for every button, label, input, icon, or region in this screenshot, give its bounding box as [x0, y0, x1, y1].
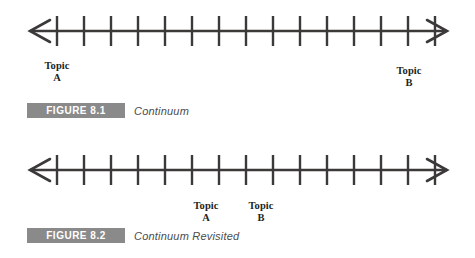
topic-b-line1: Topic — [248, 200, 273, 211]
figure-8-2-block: Topic A Topic B FIGURE 8.2 Continuum Rev… — [0, 130, 475, 258]
topic-a-label: Topic A — [17, 60, 97, 85]
topic-a-line2: A — [17, 72, 97, 84]
figure-number-badge: FIGURE 8.1 — [27, 103, 125, 118]
figure-caption-text: Continuum Revisited — [134, 230, 239, 242]
topic-b-line2: B — [369, 77, 449, 89]
continuum-graphics-2 — [30, 155, 447, 185]
topic-a-line1: Topic — [44, 60, 69, 71]
figure-caption-text: Continuum — [134, 105, 189, 117]
figure-8-2-caption: FIGURE 8.2 Continuum Revisited — [27, 228, 239, 243]
topic-b-line2: B — [221, 212, 301, 224]
topic-a-line1: Topic — [193, 200, 218, 211]
continuum-diagram-2 — [0, 130, 475, 192]
continuum-line-1 — [0, 0, 475, 62]
continuum-line-2 — [0, 130, 475, 192]
continuum-graphics-1 — [30, 16, 447, 46]
figure-8-1-block: Topic A Topic B FIGURE 8.1 Continuum — [0, 0, 475, 128]
topic-b-label: Topic B — [221, 200, 301, 225]
continuum-diagram-1 — [0, 0, 475, 62]
topic-b-line1: Topic — [396, 65, 421, 76]
figure-8-1-caption: FIGURE 8.1 Continuum — [27, 103, 189, 118]
topic-b-label: Topic B — [369, 65, 449, 90]
figure-number-badge: FIGURE 8.2 — [27, 228, 125, 243]
